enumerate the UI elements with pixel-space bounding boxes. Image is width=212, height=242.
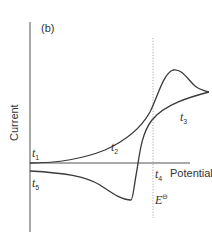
annotation-t1: t1 — [32, 147, 39, 161]
annotation-t5: t5 — [32, 177, 39, 191]
y-axis-label: Current — [9, 104, 20, 141]
reverse-scan-curve — [30, 92, 209, 200]
t5-sub: 5 — [35, 184, 39, 191]
annotation-t4: t4 — [155, 168, 162, 182]
x-axis-label: Potential — [170, 168, 212, 179]
t2-sub: 2 — [114, 148, 118, 155]
t4-sub: 4 — [158, 175, 162, 182]
eo-sup: ⊖ — [162, 193, 168, 201]
panel-label: (b) — [41, 23, 54, 34]
eo-label: E⊖ — [155, 194, 168, 206]
t1-sub: 1 — [35, 154, 39, 161]
t3-sub: 3 — [183, 118, 187, 125]
annotation-t2: t2 — [111, 141, 118, 155]
annotation-t3: t3 — [180, 111, 187, 125]
